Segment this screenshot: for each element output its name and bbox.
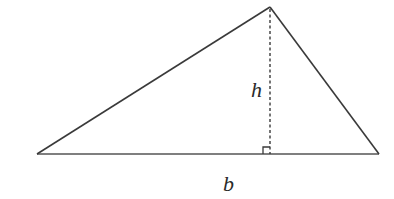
left-side-line xyxy=(37,7,270,154)
right-side-line xyxy=(270,7,379,154)
height-label: h xyxy=(251,77,262,102)
right-angle-marker xyxy=(263,147,270,154)
base-label: b xyxy=(223,171,234,196)
triangle-diagram: h b xyxy=(0,0,394,199)
